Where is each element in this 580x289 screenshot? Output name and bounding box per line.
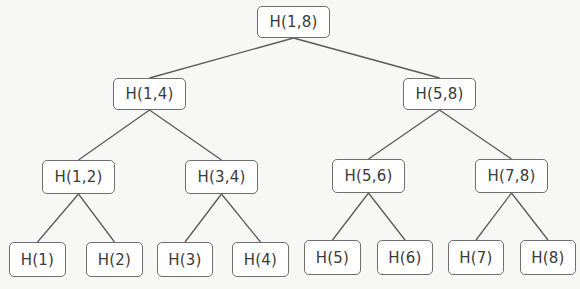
edge-root-to-1-4: [150, 38, 294, 78]
node-h-1-8: H(1,8): [257, 6, 330, 38]
edge-root-to-5-8: [294, 38, 440, 78]
leaf-h-4: H(4): [232, 242, 289, 277]
leaf-h-8: H(8): [520, 240, 576, 275]
leaf-h-5: H(5): [304, 240, 361, 275]
edge-5-6-to-5: [333, 193, 369, 240]
leaf-h-3: H(3): [157, 242, 213, 277]
edge-3-4-to-4: [222, 194, 261, 242]
leaf-h-6: H(6): [377, 240, 433, 275]
edge-7-8-to-7: [476, 193, 512, 240]
edge-1-4-to-1-2: [79, 110, 150, 160]
leaf-h-2: H(2): [86, 242, 143, 277]
node-h-3-4: H(3,4): [185, 160, 258, 194]
node-h-7-8: H(7,8): [475, 159, 548, 193]
edge-1-4-to-3-4: [150, 110, 222, 160]
node-h-1-4: H(1,4): [113, 78, 186, 110]
leaf-h-1: H(1): [9, 242, 66, 277]
node-h-5-8: H(5,8): [403, 78, 476, 110]
edge-5-6-to-6: [369, 193, 406, 240]
edge-1-2-to-1: [38, 194, 79, 242]
edge-5-8-to-5-6: [369, 110, 440, 159]
edge-1-2-to-2: [79, 194, 115, 242]
node-h-1-2: H(1,2): [42, 160, 115, 194]
leaf-h-7: H(7): [448, 240, 504, 275]
edge-7-8-to-8: [512, 193, 549, 240]
edge-5-8-to-7-8: [440, 110, 512, 159]
edge-3-4-to-3: [185, 194, 222, 242]
node-h-5-6: H(5,6): [332, 159, 405, 193]
